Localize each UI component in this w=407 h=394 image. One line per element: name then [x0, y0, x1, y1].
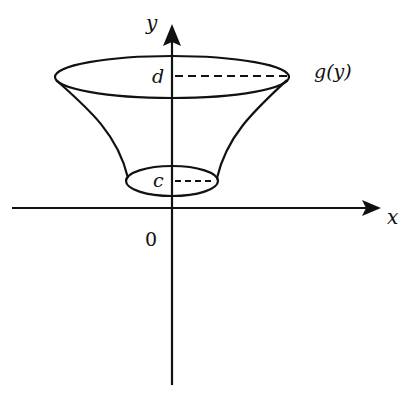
diagram-svg: y x 0 d c g(y)	[0, 0, 407, 394]
origin-label: 0	[145, 228, 157, 250]
lower-bound-label: c	[153, 169, 164, 191]
diagram-canvas: y x 0 d c g(y)	[0, 0, 407, 394]
curve-label: g(y)	[314, 60, 352, 82]
x-axis-label: x	[387, 205, 398, 229]
y-axis-label: y	[145, 11, 158, 35]
upper-bound-label: d	[152, 65, 164, 87]
